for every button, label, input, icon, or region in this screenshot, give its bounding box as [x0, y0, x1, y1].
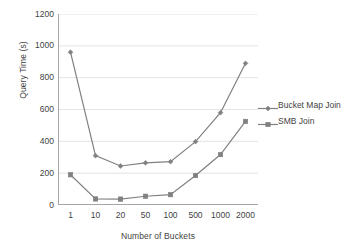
- diamond-marker-icon: [258, 100, 278, 111]
- series-line-0: [71, 52, 246, 166]
- chart-legend: Bucket Map JoinSMB Join: [258, 99, 363, 131]
- legend-label: SMB Join: [278, 117, 314, 126]
- y-axis-tick-label: 400: [14, 137, 54, 146]
- x-axis-tick-label: 2000: [229, 211, 263, 220]
- y-axis-tick-label: 1000: [14, 41, 54, 50]
- plot-svg: [58, 14, 258, 205]
- data-point-marker: [143, 160, 148, 165]
- data-point-marker: [93, 153, 98, 158]
- data-point-marker: [93, 197, 97, 201]
- legend-item-1[interactable]: SMB Join: [258, 115, 363, 128]
- data-point-marker: [118, 197, 122, 201]
- y-axis-tick-label: 1200: [14, 10, 54, 19]
- data-point-marker: [193, 173, 197, 177]
- data-point-marker: [118, 164, 123, 169]
- data-point-marker: [243, 61, 248, 66]
- data-point-marker: [143, 194, 147, 198]
- y-axis-tick-label: 200: [14, 169, 54, 178]
- chart-container: Query Time (s) 020040060080010001200 110…: [0, 0, 363, 250]
- square-marker-icon: [258, 116, 278, 127]
- legend-label: Bucket Map Join: [278, 101, 341, 110]
- series-line-1: [71, 121, 246, 199]
- data-point-marker: [68, 173, 72, 177]
- data-point-marker: [168, 192, 172, 196]
- y-axis-tick-label: 0: [14, 201, 54, 210]
- y-axis-tick-label: 800: [14, 73, 54, 82]
- y-axis-tick-label: 600: [14, 105, 54, 114]
- legend-item-0[interactable]: Bucket Map Join: [258, 99, 363, 112]
- data-point-marker: [68, 50, 73, 55]
- data-point-marker: [243, 119, 247, 123]
- data-point-marker: [218, 152, 222, 156]
- plot-area: [58, 14, 258, 205]
- x-axis-title: Number of Buckets: [58, 231, 258, 241]
